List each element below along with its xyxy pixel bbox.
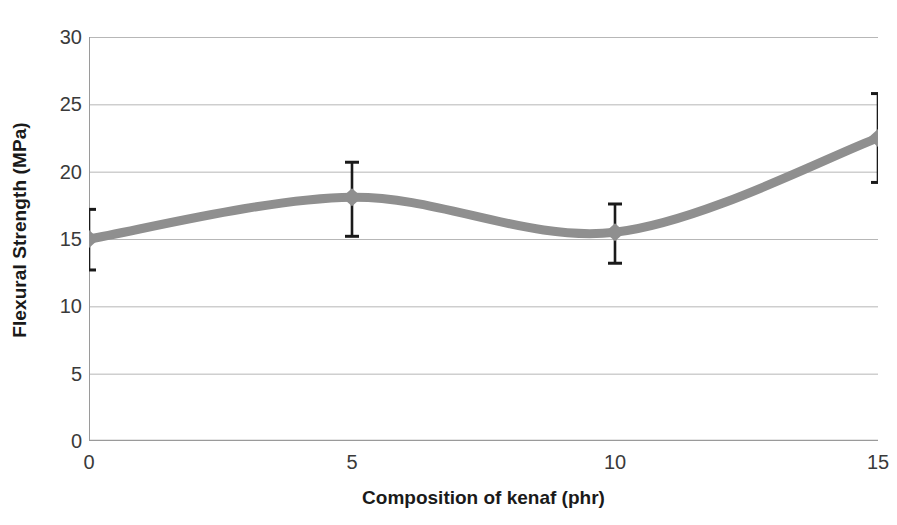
y-axis-tick-label: 25 (40, 94, 82, 114)
x-axis-tick-label: 15 (867, 452, 889, 472)
data-point-marker (89, 230, 99, 248)
data-series-line (89, 138, 878, 239)
y-axis-tick-labels: 051015202530 (34, 0, 82, 525)
plot-svg (89, 37, 878, 441)
y-axis-tick-label: 15 (40, 229, 82, 249)
series-line (89, 138, 878, 239)
y-axis-tick-label: 10 (40, 296, 82, 316)
y-axis-tick-label: 5 (40, 364, 82, 384)
y-axis-tick-label: 30 (40, 27, 82, 47)
data-point-marker (342, 188, 362, 206)
plot-area (89, 37, 878, 441)
flexural-strength-chart: Flexural Strength (MPa) 051015202530 051… (0, 0, 897, 525)
y-axis-tick-label: 0 (40, 431, 82, 451)
gridlines (89, 38, 878, 442)
x-axis-tick-label: 0 (83, 452, 94, 472)
data-point-marker (605, 223, 625, 241)
x-axis-title: Composition of kenaf (phr) (89, 487, 878, 509)
y-axis-title-text: Flexural Strength (MPa) (9, 122, 31, 338)
y-axis-tick-label: 20 (40, 162, 82, 182)
x-axis-tick-label: 5 (346, 452, 357, 472)
x-axis-tick-label: 10 (604, 452, 626, 472)
error-bars (89, 94, 878, 270)
